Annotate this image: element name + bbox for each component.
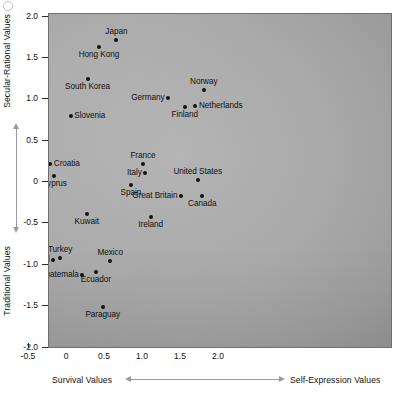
y-axis-label-top: Secular-Rational Values — [2, 14, 12, 108]
data-point — [69, 114, 73, 118]
data-point-label: Slovenia — [74, 112, 105, 120]
x-tick-label: 0 — [64, 351, 69, 361]
data-point-label: Ecuador — [81, 276, 111, 284]
data-point-label: Italy — [127, 169, 142, 177]
y-tick-label: 1.5 — [26, 52, 38, 62]
data-point-label: Norway — [190, 78, 217, 86]
data-point-label: Ireland — [138, 221, 163, 229]
y-tick-label: 0.5 — [26, 135, 38, 145]
data-point-label: Thailand — [48, 256, 50, 264]
data-point — [166, 96, 170, 100]
x-axis-direction-arrow-icon — [130, 379, 280, 380]
x-tick-label: 0.5 — [98, 351, 110, 361]
data-point — [97, 45, 101, 49]
data-point-label: Japan — [105, 27, 127, 35]
data-point — [101, 305, 105, 309]
data-point-label: Paraguay — [85, 311, 120, 319]
data-point-label: Turkey — [48, 246, 72, 254]
data-point-label: South Korea — [65, 83, 110, 91]
data-point-label: United States — [173, 167, 222, 175]
data-point — [143, 171, 147, 175]
data-point — [129, 183, 133, 187]
data-point-label: Germany — [131, 93, 164, 101]
data-point-label: Netherlands — [199, 102, 243, 110]
y-tick-label: 1.0 — [26, 93, 38, 103]
data-point — [196, 178, 200, 182]
data-point — [149, 215, 153, 219]
data-point — [183, 105, 187, 109]
data-point-label: Cuba — [48, 214, 49, 222]
data-point-label: Kuwait — [75, 218, 99, 226]
data-point — [202, 88, 206, 92]
data-point — [141, 162, 145, 166]
data-point-label: Mexico — [97, 248, 123, 256]
data-point — [52, 174, 56, 178]
data-point — [85, 212, 89, 216]
data-point-label: France — [130, 152, 155, 160]
data-point — [58, 256, 62, 260]
data-point-label: Guatemala — [48, 271, 79, 279]
data-point — [51, 258, 55, 262]
x-tick-label: -0.5 — [21, 351, 36, 361]
x-tick-label: 1.0 — [136, 351, 148, 361]
data-point-label: Hong Kong — [79, 51, 120, 59]
data-point — [86, 77, 90, 81]
scatter-chart: Secular-Rational Values Traditional Valu… — [0, 0, 402, 394]
data-point-label: Canada — [188, 200, 216, 208]
x-tick-label: 1.5 — [174, 351, 186, 361]
x-axis-label-left: Survival Values — [52, 375, 112, 385]
data-point — [179, 194, 183, 198]
y-tick-label: -1.5 — [23, 300, 38, 310]
data-point-label: Croatia — [54, 160, 80, 168]
data-point — [193, 104, 197, 108]
y-tick-label: -2.0 — [23, 342, 38, 352]
data-point — [94, 270, 98, 274]
data-point — [108, 259, 112, 263]
x-axis-label-right: Self-Expression Values — [290, 375, 380, 385]
y-tick-label: -1.0 — [23, 259, 38, 269]
data-point — [114, 38, 118, 42]
data-point — [48, 162, 52, 166]
y-axis-direction-arrow-icon — [16, 128, 17, 228]
data-point-label: Great Britain — [132, 192, 177, 200]
x-tick-label: 2.0 — [212, 351, 224, 361]
y-tick-label: 2.0 — [26, 11, 38, 21]
corner-decoration-icon — [3, 1, 13, 11]
data-point — [200, 194, 204, 198]
data-point-label: Cyprus — [48, 180, 67, 188]
plot-area: JapanHong KongChinaSouth KoreaNorwayRuss… — [48, 13, 392, 348]
y-axis-label-bottom: Traditional Values — [2, 246, 12, 316]
y-tick-label: -0.5 — [23, 217, 38, 227]
data-point-label: Finland — [172, 111, 199, 119]
y-tick-label: 0 — [33, 176, 38, 186]
